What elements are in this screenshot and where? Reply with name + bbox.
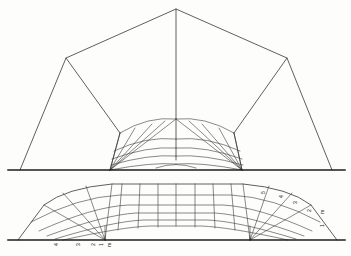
upper-left-rib-4 — [110, 121, 165, 170]
upper-left-course-5 — [110, 164, 176, 170]
lower-transverse-ribs — [118, 184, 235, 230]
lower-left-rib-3 — [86, 186, 105, 240]
label-left-2: 2 — [90, 243, 96, 246]
lower-course-1 — [31, 195, 320, 222]
label-right-m: m — [319, 210, 325, 214]
label-left-m: m — [106, 243, 112, 247]
lower-left-rib-2 — [105, 184, 112, 240]
upper-left-rib-2 — [110, 128, 135, 170]
lower-transverse-1 — [118, 184, 122, 230]
upper-right-fan-courses — [176, 119, 243, 170]
lower-course-2 — [39, 205, 312, 231]
lower-outer-boundary — [18, 184, 337, 240]
upper-inner-arc — [156, 165, 196, 169]
label-left-3: 3 — [75, 243, 81, 246]
lower-transverse-6 — [213, 184, 215, 228]
lower-course-3 — [47, 213, 304, 236]
lower-transverse-2 — [138, 184, 140, 228]
rib-number-labels: 4 3 2 1 m 5 4 3 2 m 1 — [53, 191, 325, 247]
lower-development-panel — [8, 184, 345, 240]
label-right-4: 4 — [278, 195, 284, 198]
lower-left-rib-4 — [63, 193, 105, 240]
lower-course-4 — [55, 220, 296, 239]
upper-right-course-5 — [176, 164, 242, 170]
lower-right-rib-5 — [250, 205, 311, 240]
label-right-5: 5 — [260, 191, 266, 194]
upper-right-main-rib — [234, 58, 287, 133]
upper-left-course-2 — [114, 139, 176, 152]
lower-right-ribs — [243, 184, 311, 240]
label-right-1: 1 — [319, 224, 325, 227]
label-right-3: 3 — [292, 201, 298, 204]
lower-right-rib-4 — [250, 193, 292, 240]
label-right-2: 2 — [306, 209, 312, 212]
label-left-4: 4 — [53, 243, 59, 246]
upper-left-main-rib — [66, 58, 120, 133]
label-left-1: 1 — [98, 243, 104, 246]
lower-left-ribs — [44, 184, 112, 240]
lower-course-curves — [31, 195, 320, 240]
technical-line-drawing: 4 3 2 1 m 5 4 3 2 m 1 — [0, 0, 351, 256]
figure-root: 4 3 2 1 m 5 4 3 2 m 1 — [0, 0, 351, 256]
upper-elevation-panel — [8, 9, 345, 170]
